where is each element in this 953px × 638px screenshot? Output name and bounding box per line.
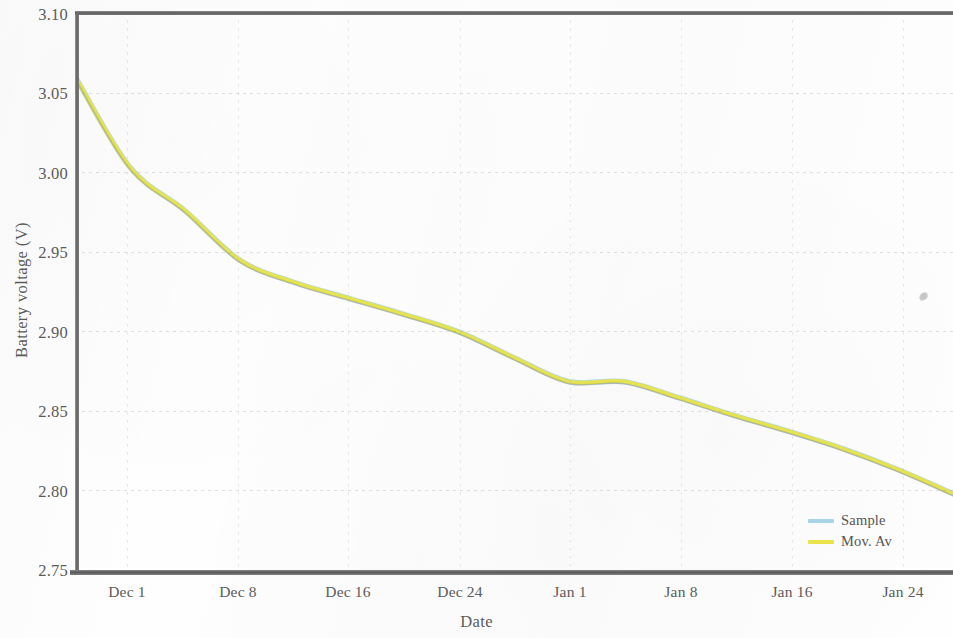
series-line-sample xyxy=(75,76,953,494)
gridline-horizontal xyxy=(75,490,953,491)
x-tick-label: Dec 1 xyxy=(72,583,182,601)
axis-frame-left xyxy=(75,11,79,575)
x-axis-title: Date xyxy=(0,612,953,632)
y-tick-label: 3.10 xyxy=(4,5,68,25)
legend-item-sample: Sample xyxy=(808,510,948,531)
y-tick-label: 3.00 xyxy=(4,164,68,184)
y-tick-label: 2.85 xyxy=(4,402,68,422)
gridline-horizontal xyxy=(75,331,953,332)
y-tick-label: 3.05 xyxy=(4,84,68,104)
x-tick-label: Jan 24 xyxy=(848,583,953,601)
plot-area xyxy=(75,12,953,572)
x-tick-label: Jan 1 xyxy=(515,583,625,601)
gridline-horizontal xyxy=(75,411,953,412)
legend-swatch-sample xyxy=(808,519,834,523)
gridline-horizontal xyxy=(75,93,953,94)
series-line-scan-shadow xyxy=(75,78,953,496)
y-tick-label: 2.90 xyxy=(4,323,68,343)
gridline-horizontal xyxy=(75,172,953,173)
series-line-mov-av xyxy=(75,76,953,494)
gridline-vertical xyxy=(681,12,682,572)
gridline-vertical xyxy=(570,12,571,572)
legend-label-mov-av: Mov. Av xyxy=(841,533,892,550)
y-tick-label: 2.95 xyxy=(4,243,68,263)
x-tick-label: Jan 8 xyxy=(626,583,736,601)
y-tick-label: 2.75 xyxy=(4,561,68,581)
gridline-vertical xyxy=(460,12,461,572)
chart-legend: Sample Mov. Av xyxy=(808,510,948,552)
x-tick-label: Dec 8 xyxy=(183,583,293,601)
gridline-vertical xyxy=(348,12,349,572)
y-axis-tick-labels: 3.10 3.05 3.00 2.95 2.90 2.85 2.80 2.75 xyxy=(0,0,68,638)
axis-frame-bottom xyxy=(70,570,953,575)
legend-item-mov-av: Mov. Av xyxy=(808,531,948,552)
gridline-vertical xyxy=(127,12,128,572)
legend-swatch-mov-av xyxy=(808,540,834,544)
x-tick-label: Dec 16 xyxy=(293,583,403,601)
gridline-vertical xyxy=(903,12,904,572)
y-tick-label: 2.80 xyxy=(4,482,68,502)
x-tick-label: Dec 24 xyxy=(405,583,515,601)
gridline-vertical xyxy=(792,12,793,572)
data-series-layer xyxy=(75,12,953,572)
axis-frame-top xyxy=(75,11,953,15)
battery-voltage-chart: Battery voltage (V) 3.10 3.05 3.00 2.95 … xyxy=(0,0,953,638)
gridline-vertical xyxy=(238,12,239,572)
x-tick-label: Jan 16 xyxy=(737,583,847,601)
legend-label-sample: Sample xyxy=(841,512,886,529)
gridline-horizontal xyxy=(75,252,953,253)
